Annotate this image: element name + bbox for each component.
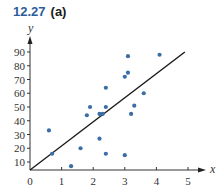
- data-point: [126, 71, 130, 75]
- data-point: [47, 128, 51, 132]
- data-point: [85, 113, 89, 117]
- x-tick-label: 0: [27, 175, 33, 187]
- data-point: [78, 146, 82, 150]
- y-axis-arrow-icon: [28, 36, 33, 44]
- x-axis-label: x: [209, 162, 216, 176]
- data-point: [97, 137, 101, 141]
- y-tick-label: 80: [14, 60, 26, 72]
- data-point: [104, 105, 108, 109]
- data-point: [50, 152, 54, 156]
- data-point: [123, 153, 127, 157]
- x-tick-label: 4: [154, 175, 160, 187]
- data-point: [104, 152, 108, 156]
- data-point: [88, 105, 92, 109]
- x-tick-label: 1: [59, 175, 65, 187]
- y-tick-label: 70: [14, 74, 26, 86]
- y-tick-label: 60: [14, 87, 26, 99]
- y-tick-label: 30: [14, 129, 26, 141]
- data-point: [132, 104, 136, 108]
- x-tick-label: 5: [185, 175, 191, 187]
- data-point: [126, 54, 130, 58]
- data-point: [157, 53, 161, 57]
- x-axis-arrow-icon: [198, 168, 206, 173]
- data-point: [129, 112, 133, 116]
- x-tick-label: 2: [90, 175, 96, 187]
- data-point: [142, 91, 146, 95]
- x-tick-label: 3: [122, 175, 128, 187]
- points-group: [47, 53, 162, 169]
- data-point: [104, 86, 108, 90]
- y-tick-label: 10: [14, 156, 26, 168]
- axes: yx102030405060708090012345: [14, 21, 216, 187]
- data-point: [123, 75, 127, 79]
- y-tick-label: 40: [14, 115, 26, 127]
- y-tick-label: 50: [14, 101, 26, 113]
- y-axis-label: y: [27, 21, 34, 35]
- y-tick-label: 90: [14, 46, 26, 58]
- data-point: [69, 164, 73, 168]
- scatter-chart: yx102030405060708090012345: [0, 0, 222, 194]
- data-point: [101, 112, 105, 116]
- y-tick-label: 20: [14, 142, 26, 154]
